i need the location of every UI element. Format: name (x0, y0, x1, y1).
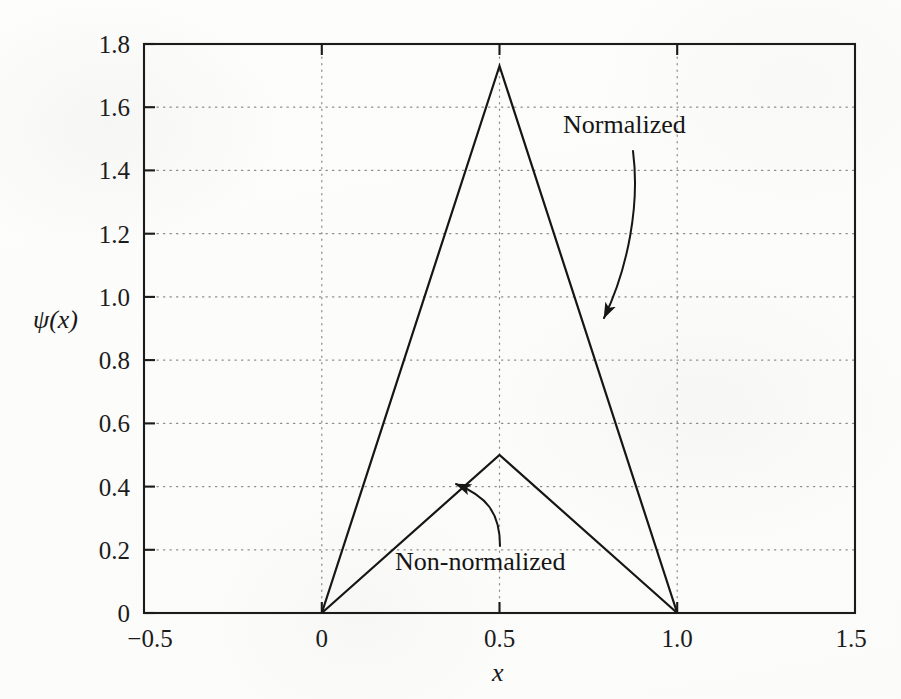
x-tick-label-1.0: 1.0 (662, 626, 693, 651)
y-tick-label-1.6: 1.6 (56, 95, 130, 120)
y-axis-title: ψ(x) (33, 305, 78, 335)
x-tick-label--0.5: −0.5 (127, 626, 172, 651)
y-tick-label-1.2: 1.2 (56, 221, 130, 246)
y-tick-label-1.8: 1.8 (56, 32, 130, 57)
y-tick-label-0.6: 0.6 (56, 411, 130, 436)
y-axis-ticks (144, 44, 155, 613)
x-tick-label-0.5: 0.5 (484, 626, 515, 651)
annotation-non-normalized: Non-normalized (395, 547, 565, 577)
x-tick-label-0: 0 (316, 626, 329, 651)
non-normalized-arrow (456, 484, 500, 546)
plot-graphic (0, 0, 901, 699)
y-tick-label-0: 0 (56, 601, 130, 626)
x-axis-title: x (492, 658, 504, 688)
y-tick-label-0.8: 0.8 (56, 348, 130, 373)
annotation-normalized: Normalized (563, 110, 686, 140)
x-tick-label-1.5: 1.5 (835, 626, 866, 651)
figure-canvas: 0 0.2 0.4 0.6 0.8 1.0 1.2 1.4 1.6 1.8 −0… (0, 0, 901, 699)
normalized-arrow (604, 151, 635, 318)
y-tick-label-0.2: 0.2 (56, 537, 130, 562)
y-tick-label-1.4: 1.4 (56, 158, 130, 183)
y-tick-label-0.4: 0.4 (56, 474, 130, 499)
